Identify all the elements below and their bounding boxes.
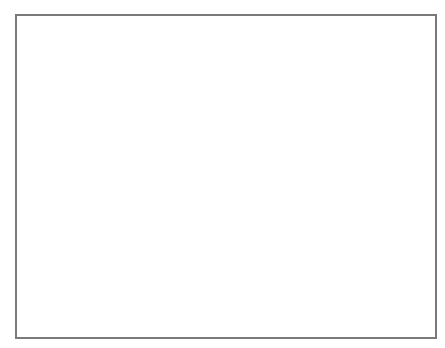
scatter-plot: [0, 0, 445, 348]
